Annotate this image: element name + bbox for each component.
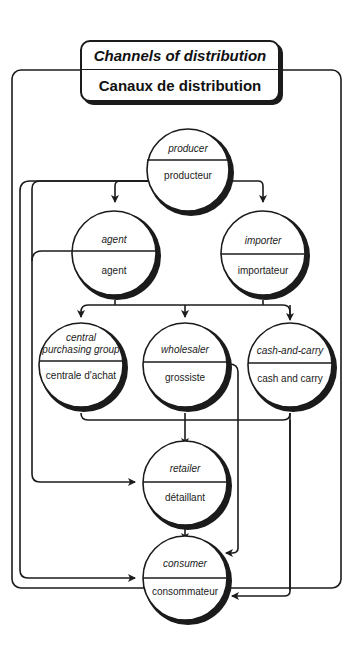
title-box: Channels of distribution Canaux de distr… bbox=[80, 40, 282, 104]
consumer-french: consommateur bbox=[143, 586, 227, 597]
importer-english: importer bbox=[221, 235, 305, 246]
importer-french: importateur bbox=[221, 265, 305, 276]
edge-agent-retailer bbox=[32, 251, 72, 261]
bus-to-central bbox=[81, 305, 88, 317]
wholesaler-english: wholesaler bbox=[143, 344, 227, 355]
title-panel: Channels of distribution Canaux de distr… bbox=[80, 40, 280, 102]
edge-cash-consumer-arrow bbox=[232, 420, 290, 596]
wholesaler-french: grossiste bbox=[143, 372, 227, 383]
cash-and-carry-french: cash and carry bbox=[248, 373, 332, 384]
title-french: Canaux de distribution bbox=[82, 71, 278, 100]
agent-french: agent bbox=[72, 265, 156, 276]
edge-producer-importer bbox=[228, 181, 263, 202]
edge-producer-agent bbox=[115, 181, 150, 202]
label-central-purchasing-group: central purchasing group centrale d'acha… bbox=[39, 323, 123, 407]
label-consumer: consumer consommateur bbox=[143, 536, 227, 620]
retailer-french: détaillant bbox=[143, 492, 227, 503]
central-purchasing-group-french: centrale d'achat bbox=[39, 370, 123, 381]
label-retailer: retailer détaillant bbox=[143, 441, 227, 525]
retailer-english: retailer bbox=[143, 463, 227, 474]
label-agent: agent agent bbox=[72, 211, 156, 295]
producer-english: producer bbox=[147, 143, 229, 154]
label-wholesaler: wholesaler grossiste bbox=[143, 323, 227, 407]
consumer-english: consumer bbox=[143, 558, 227, 569]
label-cash-and-carry: cash-and-carry cash and carry bbox=[248, 323, 332, 407]
central-purchasing-group-english-line1: central bbox=[39, 332, 123, 343]
edge-wholesaler-consumer bbox=[226, 364, 238, 553]
central-purchasing-group-english-line2: purchasing group bbox=[39, 344, 123, 355]
title-english: Channels of distribution bbox=[82, 42, 278, 70]
producer-french: producteur bbox=[147, 170, 229, 181]
agent-english: agent bbox=[72, 234, 156, 245]
bus-row3 bbox=[88, 305, 290, 317]
label-producer: producer producteur bbox=[147, 129, 229, 211]
label-importer: importer importateur bbox=[221, 211, 305, 295]
cash-and-carry-english: cash-and-carry bbox=[248, 345, 332, 356]
